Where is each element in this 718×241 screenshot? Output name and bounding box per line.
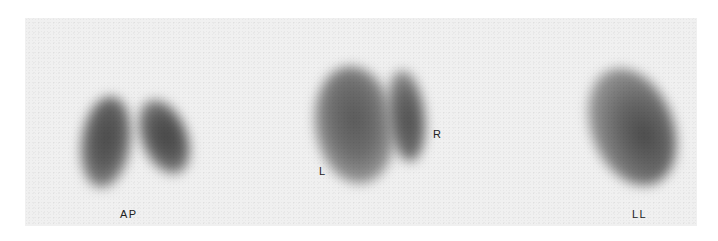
left-side-label: L [319,165,327,177]
ap-left-lung [128,92,200,182]
right-side-label: R [433,128,442,140]
ap-label: AP [120,208,138,220]
ap-right-lung [75,93,137,191]
ll-label: LL [632,208,647,220]
scan-panel: AP L R LL [25,18,697,226]
lateral-lung [571,55,693,199]
